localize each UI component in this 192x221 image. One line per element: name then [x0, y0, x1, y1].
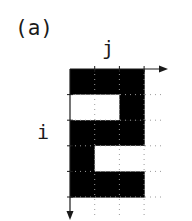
- empty-cell: [95, 95, 120, 121]
- filled-cell: [119, 69, 144, 95]
- empty-cell: [70, 95, 95, 121]
- filled-cell: [119, 171, 144, 197]
- filled-cell: [70, 69, 95, 95]
- filled-cell: [70, 120, 95, 146]
- grid-cells: [70, 69, 145, 198]
- filled-cell: [70, 146, 95, 172]
- filled-cell: [95, 120, 120, 146]
- filled-cell: [70, 171, 95, 197]
- arrow-right-icon: [159, 66, 168, 73]
- binary-grid-diagram: [0, 0, 192, 221]
- empty-cell: [95, 146, 120, 172]
- empty-cell: [119, 146, 144, 172]
- arrow-down-icon: [67, 211, 74, 220]
- filled-cell: [95, 69, 120, 95]
- filled-cell: [95, 171, 120, 197]
- filled-cell: [119, 95, 144, 121]
- filled-cell: [119, 120, 144, 146]
